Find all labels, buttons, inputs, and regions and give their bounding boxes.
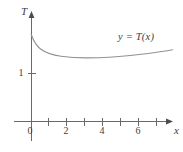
curve-annotation-label: y = T(x) bbox=[118, 32, 154, 43]
x-tick-label-4: 4 bbox=[97, 126, 107, 136]
x-tick-label-6: 6 bbox=[133, 126, 143, 136]
y-axis-label: T bbox=[21, 6, 27, 17]
y-tick-label-1: 1 bbox=[16, 68, 26, 78]
y-axis-arrow-icon bbox=[29, 11, 35, 18]
x-tick-label-0: 0 bbox=[25, 126, 35, 136]
x-axis-label: x bbox=[174, 125, 179, 136]
x-axis-arrow-icon bbox=[166, 119, 173, 125]
graph-figure: T x 1 0 2 4 6 y = T(x) bbox=[0, 0, 183, 152]
x-tick-label-2: 2 bbox=[61, 126, 71, 136]
